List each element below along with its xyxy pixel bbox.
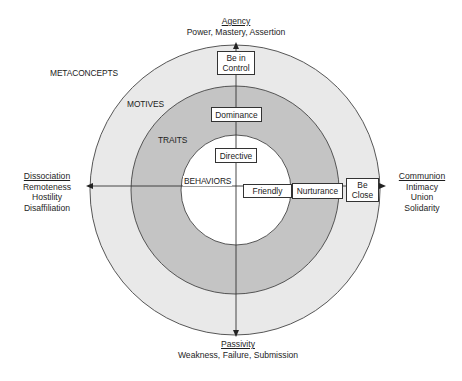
pole-left: Dissociation Remoteness Hostility Disaff… — [8, 171, 86, 213]
be-close-box: Be Close — [346, 178, 379, 202]
traits-label: TRAITS — [158, 135, 187, 145]
pole-bottom-subtitle: Weakness, Failure, Submission — [150, 350, 326, 361]
behaviors-label: BEHAVIORS — [183, 176, 232, 186]
nurturance-box: Nurturance — [292, 183, 343, 199]
metaconcepts-label: METACONCEPTS — [50, 68, 118, 78]
pole-left-line: Disaffiliation — [8, 203, 86, 214]
dominance-box: Dominance — [211, 107, 262, 122]
pole-top-title: Agency — [160, 16, 312, 27]
friendly-box: Friendly — [243, 184, 292, 198]
be-in-control-box: Be in Control — [217, 51, 255, 75]
pole-bottom: Passivity Weakness, Failure, Submission — [150, 339, 326, 360]
arrow-left-icon — [86, 183, 93, 189]
pole-top-subtitle: Power, Mastery, Assertion — [160, 27, 312, 38]
pole-right-line: Union — [387, 192, 457, 203]
pole-left-title: Dissociation — [8, 171, 86, 182]
arrow-right-icon — [379, 183, 386, 189]
pole-right: Communion Intimacy Union Solidarity — [387, 171, 457, 213]
pole-right-line: Solidarity — [387, 203, 457, 214]
pole-left-line: Remoteness — [8, 182, 86, 193]
pole-right-line: Intimacy — [387, 182, 457, 193]
pole-bottom-title: Passivity — [150, 339, 326, 350]
motives-label: MOTIVES — [127, 99, 164, 109]
pole-top: Agency Power, Mastery, Assertion — [160, 16, 312, 37]
pole-right-title: Communion — [387, 171, 457, 182]
directive-box: Directive — [215, 148, 257, 163]
pole-left-line: Hostility — [8, 192, 86, 203]
